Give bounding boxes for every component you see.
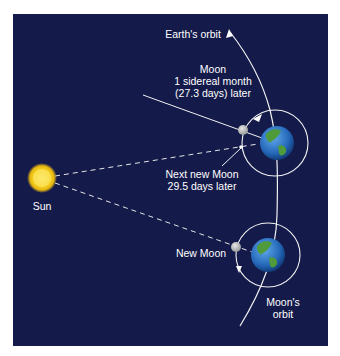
earths-orbit-label: Earth's orbit [165,28,221,40]
earth-icon [251,238,285,272]
next-new-moon-marker [239,145,243,149]
next-new-moon-label-line2: 29.5 days later [168,180,237,192]
next-new-moon-label-line1: Next new Moon [166,168,239,180]
earth-icon [260,126,294,160]
moons-orbit-label-line2: orbit [273,308,294,320]
lunar-month-diagram: Earth's orbit Moon 1 sidereal month (27.… [0,0,340,356]
new-moon-label: New Moon [176,247,226,259]
sun-icon [27,163,57,193]
moons-orbit-label-line1: Moon's [266,296,300,308]
moon-sidereal-label-line3: (27.3 days) later [175,87,251,99]
moon-icon [238,125,248,135]
moon-sidereal-label-line2: 1 sidereal month [174,75,252,87]
moon-icon [231,242,241,252]
moon-sidereal-label-line1: Moon [200,63,226,75]
sun-label: Sun [33,200,52,212]
